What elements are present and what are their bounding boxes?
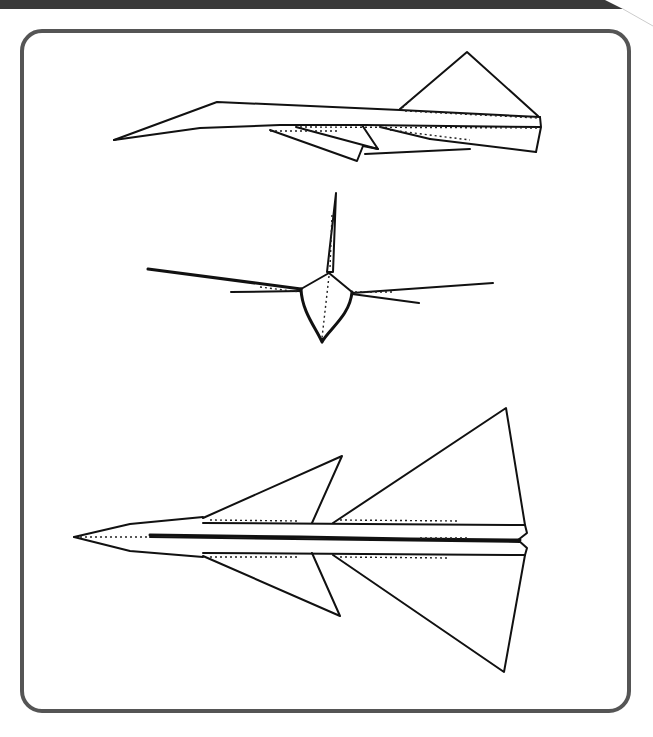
airplane-illustration [0,0,653,737]
top-view [74,408,527,672]
front-view [148,193,493,344]
side-view [114,52,541,161]
